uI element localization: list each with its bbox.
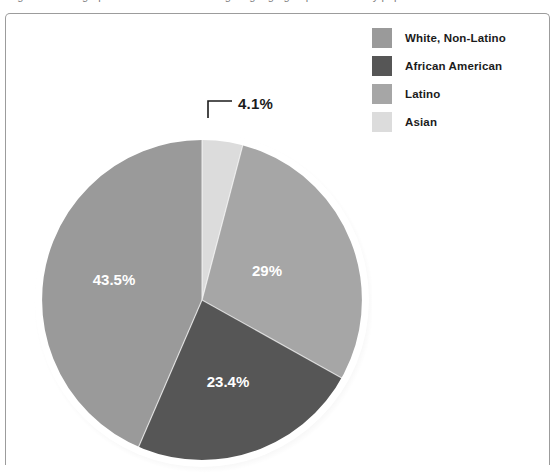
legend-swatch-icon (372, 56, 392, 76)
legend-item-african-american[interactable]: African American (372, 52, 552, 80)
figure-caption-sliver: Figure 1 Demographic characteristics amo… (0, 0, 556, 9)
figure-caption-text: Figure 1 Demographic characteristics amo… (8, 0, 433, 2)
legend-item-asian[interactable]: Asian (372, 108, 552, 136)
legend-item-label: Asian (405, 116, 437, 128)
legend-item-label: Latino (405, 88, 440, 100)
asian-slice-value: 4.1% (238, 95, 273, 112)
slice-label-white-non-latino: 43.5% (93, 271, 136, 288)
legend-swatch-icon (372, 28, 392, 48)
legend-item-white-non-latino[interactable]: White, Non-Latino (372, 24, 552, 52)
slice-label-latino: 29% (252, 262, 282, 279)
figure-panel: White, Non-Latino African American Latin… (5, 13, 550, 465)
chart-legend: White, Non-Latino African American Latin… (372, 24, 552, 136)
slice-label-african-american: 23.4% (207, 373, 250, 390)
pie-chart-svg: 29% 23.4% 43.5% (32, 116, 372, 473)
legend-item-latino[interactable]: Latino (372, 80, 552, 108)
legend-item-label: White, Non-Latino (405, 32, 506, 44)
pie-chart: 29% 23.4% 43.5% (32, 116, 372, 473)
legend-swatch-icon (372, 112, 392, 132)
legend-item-label: African American (405, 60, 502, 72)
legend-swatch-icon (372, 84, 392, 104)
